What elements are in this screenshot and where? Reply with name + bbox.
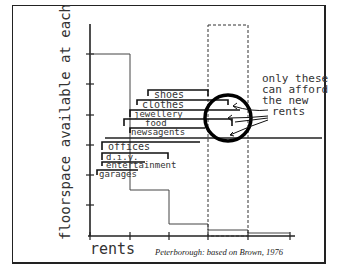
rent-floorspace-diagram: shoes clothes jewellery food newsagents … bbox=[0, 0, 340, 276]
svg-text:rents: rents bbox=[272, 105, 305, 118]
label-garages: garages bbox=[99, 169, 137, 179]
label-offices: offices bbox=[108, 141, 150, 152]
annotation-text: only these can afford the new rents bbox=[262, 72, 328, 118]
category-labels: shoes clothes jewellery food newsagents … bbox=[99, 89, 185, 179]
y-axis-label: floorspace available at each rent bbox=[57, 0, 73, 240]
x-axis-label: rents bbox=[90, 240, 135, 258]
source-caption: Peterborough: based on Brown, 1976 bbox=[154, 247, 284, 257]
label-newsagents: newsagents bbox=[131, 127, 185, 137]
new-rent-band bbox=[208, 25, 248, 236]
